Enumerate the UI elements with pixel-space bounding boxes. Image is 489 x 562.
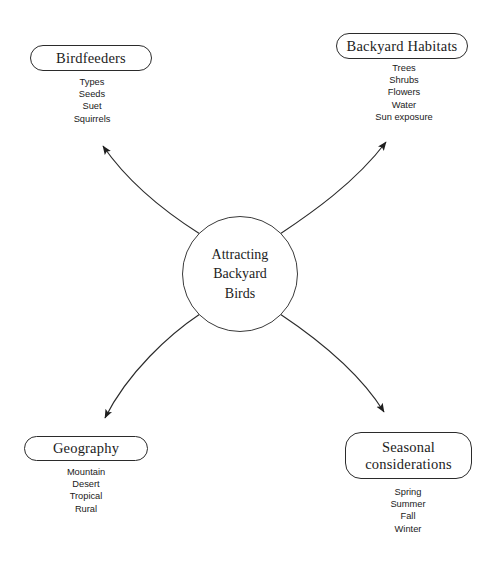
list-item: Winter bbox=[368, 523, 448, 535]
detail-list-geography: Mountain Desert Tropical Rural bbox=[46, 466, 126, 515]
list-item: Desert bbox=[46, 478, 126, 490]
node-birdfeeders-label: Birdfeeders bbox=[56, 50, 126, 67]
list-item: Water bbox=[354, 99, 454, 111]
list-item: Summer bbox=[368, 498, 448, 510]
node-geography: Geography bbox=[24, 436, 148, 461]
detail-list-backyard-habitats: Trees Shrubs Flowers Water Sun exposure bbox=[354, 62, 454, 123]
detail-list-seasonal-considerations: Spring Summer Fall Winter bbox=[368, 486, 448, 535]
connector-center-to-birdfeeders bbox=[103, 146, 200, 234]
list-item: Trees bbox=[354, 62, 454, 74]
connector-center-to-geography bbox=[105, 314, 200, 418]
list-item: Squirrels bbox=[52, 113, 132, 125]
list-item: Types bbox=[52, 76, 132, 88]
list-item: Sun exposure bbox=[354, 111, 454, 123]
list-item: Seeds bbox=[52, 88, 132, 100]
diagram-canvas: Attracting Backyard Birds Birdfeeders Ty… bbox=[0, 0, 489, 562]
center-node: Attracting Backyard Birds bbox=[182, 216, 298, 332]
list-item: Spring bbox=[368, 486, 448, 498]
center-node-label: Attracting Backyard Birds bbox=[212, 245, 269, 303]
list-item: Fall bbox=[368, 510, 448, 522]
list-item: Shrubs bbox=[354, 74, 454, 86]
list-item: Mountain bbox=[46, 466, 126, 478]
list-item: Suet bbox=[52, 100, 132, 112]
connector-center-to-seasonal bbox=[280, 314, 384, 412]
node-seasonal-considerations: Seasonal considerations bbox=[345, 432, 472, 479]
list-item: Tropical bbox=[46, 490, 126, 502]
node-backyard-habitats: Backyard Habitats bbox=[336, 33, 468, 59]
connector-center-to-habitats bbox=[280, 142, 386, 234]
node-geography-label: Geography bbox=[53, 440, 119, 457]
detail-list-birdfeeders: Types Seeds Suet Squirrels bbox=[52, 76, 132, 125]
list-item: Rural bbox=[46, 503, 126, 515]
node-seasonal-considerations-label: Seasonal considerations bbox=[365, 439, 452, 472]
list-item: Flowers bbox=[354, 86, 454, 98]
node-backyard-habitats-label: Backyard Habitats bbox=[347, 38, 458, 55]
node-birdfeeders: Birdfeeders bbox=[30, 45, 152, 71]
